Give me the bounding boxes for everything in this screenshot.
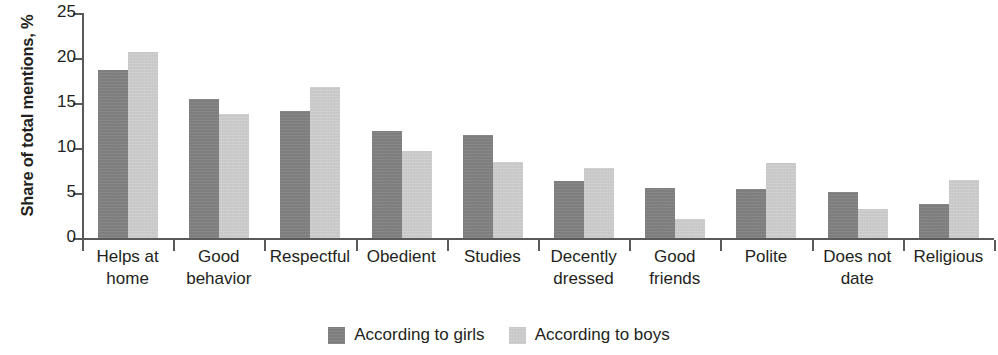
bar-group (720, 13, 811, 238)
legend-item[interactable]: According to girls (328, 325, 484, 345)
bar[interactable] (949, 180, 979, 239)
y-axis-tick-label: 5 (67, 182, 76, 202)
bar[interactable] (645, 188, 675, 238)
bar[interactable] (372, 131, 402, 238)
x-axis-category-labels: Helps athomeGoodbehaviorRespectfulObedie… (82, 246, 994, 304)
bar[interactable] (584, 168, 614, 238)
bar[interactable] (858, 209, 888, 238)
bar-group (173, 13, 264, 238)
legend-swatch-icon (509, 327, 526, 344)
bar-group (447, 13, 538, 238)
bar[interactable] (128, 52, 158, 238)
bar[interactable] (98, 70, 128, 238)
bar-group (629, 13, 720, 238)
legend-label: According to girls (354, 325, 484, 345)
bar[interactable] (219, 114, 249, 238)
x-axis-category-label: Obedient (356, 246, 447, 268)
legend-label: According to boys (535, 325, 670, 345)
y-axis-tick-label: 10 (57, 137, 76, 157)
x-axis-category-label: Polite (720, 246, 811, 268)
bar-group (356, 13, 447, 238)
bar-group (264, 13, 355, 238)
plot-area: 0510152025 (82, 13, 994, 238)
bar-group (903, 13, 994, 238)
x-axis-category-label: Religious (903, 246, 994, 268)
chart-legend: According to girlsAccording to boys (0, 325, 998, 345)
x-axis-category-label: Goodfriends (629, 246, 720, 290)
legend-item[interactable]: According to boys (509, 325, 670, 345)
y-axis-tick-label: 20 (57, 47, 76, 67)
bar[interactable] (675, 219, 705, 238)
bar[interactable] (554, 181, 584, 238)
bar[interactable] (828, 192, 858, 238)
x-axis-category-label: Goodbehavior (173, 246, 264, 290)
x-axis-category-label: Decentlydressed (538, 246, 629, 290)
bar-group (812, 13, 903, 238)
x-axis-category-label: Respectful (264, 246, 355, 268)
bar[interactable] (463, 135, 493, 239)
bar-chart: Share of total mentions, % 0510152025 He… (0, 0, 998, 355)
y-axis-title: Share of total mentions, % (18, 0, 37, 236)
bar[interactable] (189, 99, 219, 238)
bar[interactable] (280, 111, 310, 238)
bar[interactable] (766, 163, 796, 238)
bar-group (82, 13, 173, 238)
x-axis-tick-mark (994, 240, 996, 251)
y-axis-tick-label: 25 (57, 2, 76, 22)
x-axis-category-label: Does notdate (812, 246, 903, 290)
y-axis-tick-label: 15 (57, 92, 76, 112)
x-axis-category-label: Studies (447, 246, 538, 268)
x-axis-category-label: Helps athome (82, 246, 173, 290)
bar[interactable] (493, 162, 523, 239)
bar[interactable] (736, 189, 766, 239)
y-axis-tick-label: 0 (67, 227, 76, 247)
legend-swatch-icon (328, 327, 345, 344)
bar[interactable] (919, 204, 949, 238)
bar[interactable] (310, 87, 340, 238)
bar[interactable] (402, 151, 432, 238)
bar-group (538, 13, 629, 238)
